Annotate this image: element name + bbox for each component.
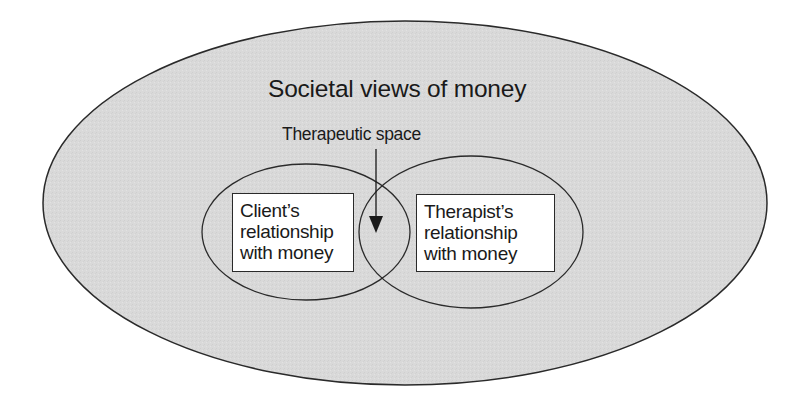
therapist-box-line-2: relationship <box>424 222 554 243</box>
diagram-title: Societal views of money <box>268 75 526 103</box>
client-box-line-1: Client’s <box>240 200 353 221</box>
therapist-box-line-1: Therapist’s <box>424 201 554 222</box>
client-relationship-box: Client’s relationship with money <box>232 193 354 272</box>
venn-diagram <box>0 0 805 406</box>
therapist-relationship-box: Therapist’s relationship with money <box>416 194 555 272</box>
client-box-line-3: with money <box>240 242 353 263</box>
therapeutic-space-label: Therapeutic space <box>282 124 421 145</box>
therapist-box-line-3: with money <box>424 243 554 264</box>
client-box-line-2: relationship <box>240 221 353 242</box>
